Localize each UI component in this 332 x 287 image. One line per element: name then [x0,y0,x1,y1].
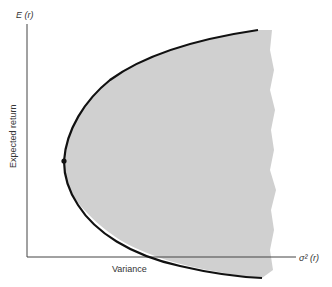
y-axis-label: Expected return [8,104,18,168]
feasible-region [64,30,276,278]
minimum-variance-point [61,158,66,163]
chart: E (r) σ² (r) Variance Expected return [0,0,332,287]
x-axis-label: Variance [112,264,147,274]
y-axis-symbol: E (r) [16,10,34,20]
x-axis-symbol: σ² (r) [299,253,319,263]
